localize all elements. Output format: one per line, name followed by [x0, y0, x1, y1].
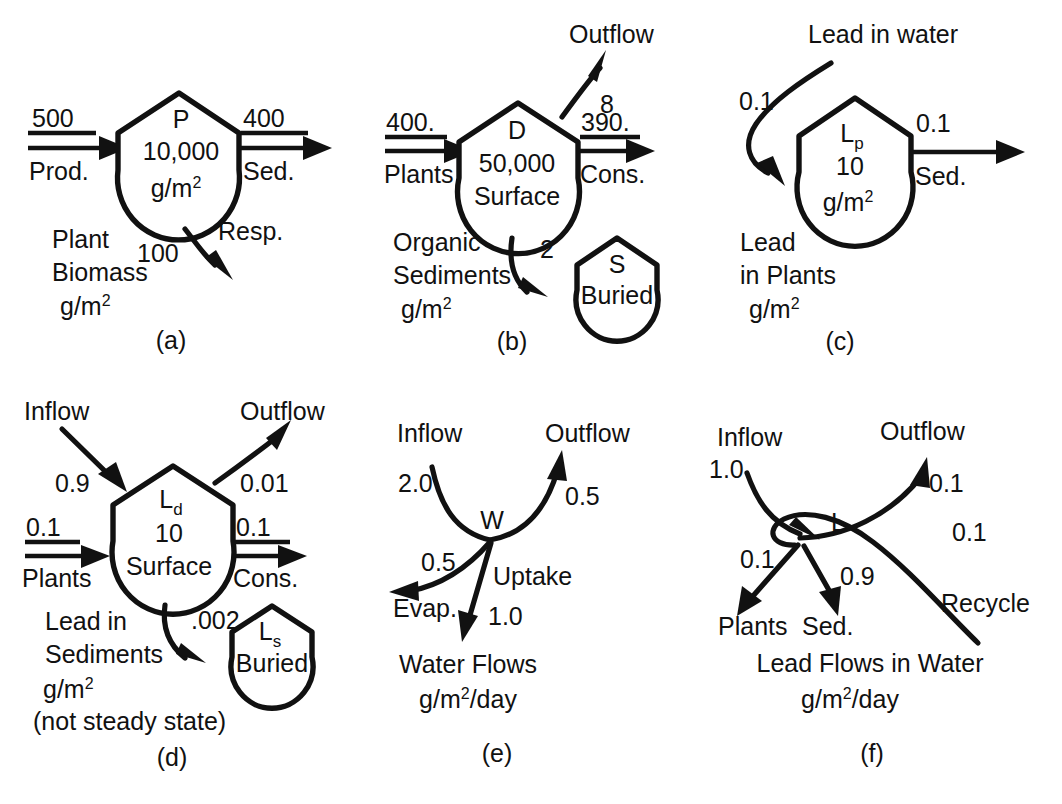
panel-b-node2-symbol: S [609, 250, 626, 278]
panel-b-node-value: 50,000 [479, 149, 555, 177]
panel-d-outflow-label: Cons. [233, 564, 298, 592]
panel-d-caption-note: (not steady state) [33, 707, 226, 735]
panel-f-outflow-value: 0.1 [929, 469, 964, 497]
panel-b-node-state: Surface [474, 182, 560, 210]
panel-a-caption-line-2: Biomass [52, 258, 148, 286]
panel-c-outflow-value: 0.1 [916, 109, 951, 137]
panel-b-inflow-label: Plants [384, 160, 453, 188]
panel-b-caption-line-2: Sediments [393, 261, 511, 289]
panel-e-uptake-label: Uptake [493, 562, 572, 590]
panel-b-outflow-value: 390. [581, 108, 630, 136]
panel-e-uptake-value: 1.0 [488, 602, 523, 630]
panel-b-burial-value: 2 [540, 235, 554, 263]
panel-e-caption-line-1: Water Flows [399, 650, 537, 678]
panel-e-evaporation-value: 0.5 [421, 548, 456, 576]
panel-c-inflow-label: Lead in water [808, 20, 958, 48]
panel-a-outflow-value: 400 [243, 104, 285, 132]
panel-f-inflow-value: 1.0 [709, 455, 744, 483]
panel-c-caption-line-1: Lead [740, 228, 796, 256]
panel-f-recycle-value: 0.1 [952, 518, 987, 546]
panel-b-label: (b) [497, 327, 528, 355]
panel-d-node-state: Surface [126, 552, 212, 580]
panel-d-caption-line-2: Sediments [45, 640, 163, 668]
panel-b-outflow-top-label: Outflow [569, 20, 655, 48]
panel-e-evap-caption: Evap. [393, 594, 457, 622]
panel-e-outflow-label: Outflow [545, 419, 631, 447]
panel-c-caption-line-2: in Plants [740, 261, 836, 289]
panel-d-outflow-value: 0.1 [236, 513, 271, 541]
panel-f-label: (f) [860, 739, 884, 767]
panel-c-node-value: 10 [836, 152, 864, 180]
panel-d-outflow-top-label: Outflow [240, 397, 326, 425]
panel-d-outflow-top-value: 0.01 [240, 469, 289, 497]
panel-a-caption-line-1: Plant [52, 225, 109, 253]
panel-a-node-symbol: P [173, 105, 190, 133]
panel-f-inflow-label: Inflow [717, 423, 783, 451]
panel-b-outflow-label: Cons. [580, 160, 645, 188]
panel-d-node-value: 10 [155, 519, 183, 547]
panel-a-node-value: 10,000 [143, 137, 219, 165]
panel-f-caption-line-1: Lead Flows in Water [757, 649, 984, 677]
compartment-flow-figure: 500 Prod. P 10,000 g/m2 400 Sed. 100 Res… [0, 0, 1062, 804]
panel-d-inflow-top-value: 0.9 [55, 469, 90, 497]
panel-a-inflow-value: 500 [32, 104, 74, 132]
panel-b-inflow-value: 400. [386, 108, 435, 136]
panel-e-inflow-value: 2.0 [398, 469, 433, 497]
panel-f-outflow-label: Outflow [880, 417, 966, 445]
panel-f-recycle-label: Recycle [941, 589, 1030, 617]
panel-a-label: (a) [156, 326, 187, 354]
panel-b-caption-line-1: Organic [393, 228, 481, 256]
panel-c-label: (c) [825, 327, 854, 355]
panel-a-respiration-label: Resp. [218, 217, 283, 245]
panel-d-caption-line-1: Lead in [45, 607, 127, 635]
panel-f-plants-label: Plants [718, 612, 787, 640]
panel-e-inflow-label: Inflow [397, 419, 463, 447]
panel-d-inflow-value: 0.1 [26, 513, 61, 541]
panel-d-inflow-label: Plants [22, 564, 91, 592]
panel-b-node2-state: Buried [581, 281, 653, 309]
panel-f-plants-value: 0.1 [740, 545, 775, 573]
panel-c-inflow-value: 0.1 [739, 87, 774, 115]
panel-a-inflow-label: Prod. [29, 157, 89, 185]
panel-a-outflow-label: Sed. [243, 157, 294, 185]
panel-f-sediment-value: 0.9 [840, 562, 875, 590]
panel-c-outflow-label: Sed. [915, 162, 966, 190]
panel-d-inflow-top-label: Inflow [24, 397, 90, 425]
panel-f-node-symbol: L [831, 508, 845, 536]
panel-e-label: (e) [482, 739, 513, 767]
panel-f-sediment-label: Sed. [802, 612, 853, 640]
panel-e-node-symbol: W [480, 506, 504, 534]
panel-d-node2-state: Buried [236, 649, 308, 677]
panel-e-outflow-value: 0.5 [565, 482, 600, 510]
panel-d-label: (d) [157, 743, 188, 771]
panel-b-node-symbol: D [508, 116, 526, 144]
figure-canvas: 500 Prod. P 10,000 g/m2 400 Sed. 100 Res… [0, 0, 1062, 804]
